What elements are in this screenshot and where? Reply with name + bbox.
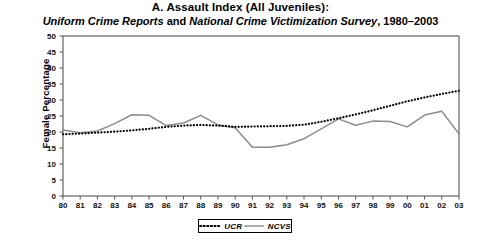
chart-legend: UCR NCVS <box>198 219 292 233</box>
y-tick-label: 50 <box>34 32 56 41</box>
legend-swatch-dotted <box>199 223 221 229</box>
legend-label-ncvs: NCVS <box>268 222 291 231</box>
y-tick-label: 20 <box>34 128 56 137</box>
legend-swatch-solid <box>243 223 265 229</box>
y-tick-label: 0 <box>34 192 56 201</box>
y-tick-label: 30 <box>34 96 56 105</box>
y-tick-label: 25 <box>34 112 56 121</box>
y-tick-label: 35 <box>34 80 56 89</box>
series-line-ncvs <box>63 111 459 147</box>
y-tick-label: 15 <box>34 144 56 153</box>
y-tick-label: 45 <box>34 48 56 57</box>
x-tick-label: 03 <box>449 201 469 210</box>
series-line-ucr <box>63 91 459 135</box>
legend-item-ncvs: NCVS <box>243 222 291 231</box>
y-tick-label: 10 <box>34 160 56 169</box>
legend-label-ucr: UCR <box>224 222 242 231</box>
legend-item-ucr: UCR <box>199 222 242 231</box>
y-tick-label: 5 <box>34 176 56 185</box>
plot-frame <box>63 36 459 196</box>
chart-figure: A. Assault Index (All Juveniles): Unifor… <box>0 0 481 242</box>
y-tick-label: 40 <box>34 64 56 73</box>
